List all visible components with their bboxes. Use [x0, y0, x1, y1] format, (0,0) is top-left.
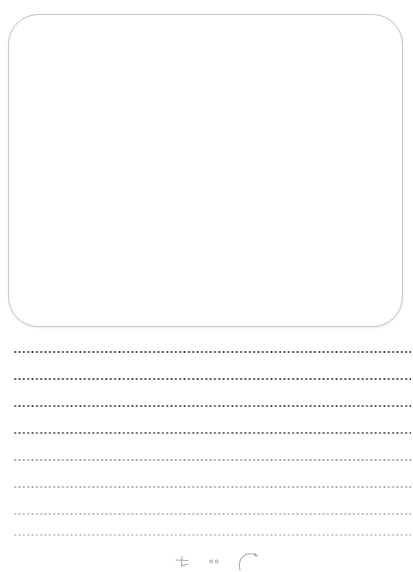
writing-line[interactable] — [13, 405, 411, 407]
writing-lines — [0, 327, 413, 542]
writing-line[interactable] — [13, 351, 411, 353]
worksheet-page — [0, 0, 413, 572]
handwriting-marks — [168, 548, 273, 572]
pencil-stroke-icon — [168, 548, 273, 572]
writing-line[interactable] — [13, 378, 411, 380]
writing-line[interactable] — [13, 486, 411, 488]
drawing-box[interactable] — [8, 14, 403, 327]
writing-line[interactable] — [13, 459, 411, 461]
writing-line[interactable] — [13, 513, 411, 515]
writing-line[interactable] — [13, 534, 411, 536]
writing-line[interactable] — [13, 432, 411, 434]
drawing-canvas[interactable] — [9, 15, 402, 326]
